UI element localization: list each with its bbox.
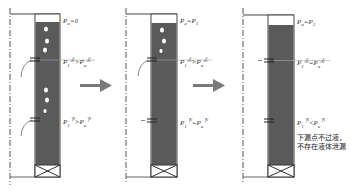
panel-2-lower-pressure-label: P1下=Pa下 xyxy=(180,116,208,129)
panel-3-top-pressure-label: Pa=P2 xyxy=(297,18,315,27)
leak-flow-curve xyxy=(21,60,32,77)
panel-3-graphic xyxy=(243,8,330,183)
bubble xyxy=(159,49,162,53)
panel-2-top-pressure-label: Pa=P1 xyxy=(180,17,198,26)
panel-2-upper-pressure-label: P1上>Pa上 xyxy=(180,55,208,68)
panel-3-lower-pressure-label: P1下<Pa下 xyxy=(297,116,325,129)
bubble xyxy=(43,109,46,113)
leak-flow-curve xyxy=(21,120,32,136)
liquid-column xyxy=(36,22,60,165)
bubble xyxy=(160,28,164,33)
panel-3-upper-pressure-label: P1上=Pa上 xyxy=(297,56,325,69)
process-arrow-1 xyxy=(80,79,112,92)
panel-2-graphic xyxy=(126,8,212,183)
panel-1-upper-pressure-label: P1上>Pa上 xyxy=(63,55,91,68)
bubble xyxy=(45,98,49,103)
leak-flow-curve xyxy=(138,60,149,76)
process-arrow-2 xyxy=(193,79,225,92)
panel-1-top-pressure-label: Pa=0 xyxy=(63,17,78,26)
liquid-column xyxy=(152,23,177,165)
bubble xyxy=(43,48,47,53)
note-line-1: 下漏点不过液， xyxy=(297,134,346,143)
panel-3-conclusion-note: 下漏点不过液， 不存在液体泄漏 xyxy=(297,134,346,152)
diagram-canvas xyxy=(0,0,354,193)
panel-1-graphic xyxy=(10,8,95,185)
bubble xyxy=(162,39,166,44)
bubble xyxy=(44,88,48,93)
liquid-column xyxy=(269,25,294,165)
note-line-2: 不存在液体泄漏 xyxy=(297,143,346,152)
bubble xyxy=(45,39,49,44)
bubble xyxy=(44,27,48,32)
panel-1-lower-pressure-label: P1下>Pa下 xyxy=(63,115,91,128)
